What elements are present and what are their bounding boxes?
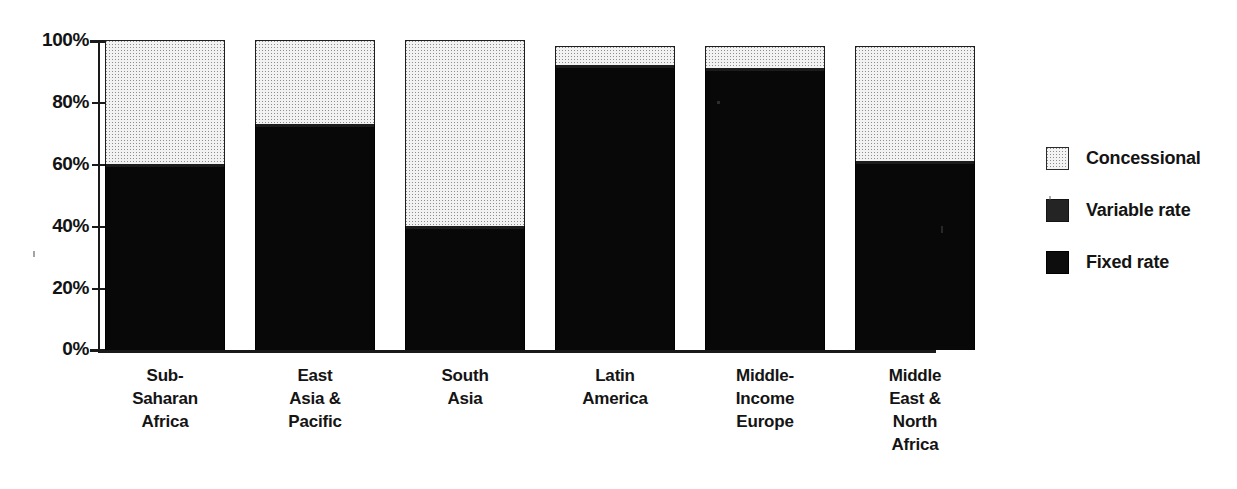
x-axis-category-label: Middle-IncomeEurope	[690, 364, 840, 433]
x-axis-category-label: EastAsia &Pacific	[240, 364, 390, 433]
scan-speckle	[717, 101, 720, 104]
bar-segment-concessional[interactable]	[405, 40, 525, 226]
y-axis-tick-80	[92, 102, 105, 104]
category-label-line: Middle	[840, 364, 990, 387]
bar-group[interactable]	[855, 46, 975, 350]
y-axis-tick-20	[92, 288, 105, 290]
category-label-line: South	[390, 364, 540, 387]
category-label-line: Income	[690, 387, 840, 410]
x-axis-category-label: LatinAmerica	[540, 364, 690, 410]
scan-speckle	[1049, 196, 1051, 200]
bar-segment-fixed-rate[interactable]	[105, 167, 225, 350]
legend-label-fixed-rate: Fixed rate	[1086, 252, 1169, 273]
category-label-line: Saharan	[90, 387, 240, 410]
category-label-line: Europe	[690, 410, 840, 433]
bar-segment-fixed-rate[interactable]	[705, 71, 825, 350]
y-axis-label-60: 60%	[52, 153, 89, 175]
category-label-line: Pacific	[240, 410, 390, 433]
bar-segment-fixed-rate[interactable]	[555, 68, 675, 350]
category-label-line: Asia	[390, 387, 540, 410]
legend-label-variable-rate: Variable rate	[1086, 200, 1190, 221]
category-label-line: Latin	[540, 364, 690, 387]
bar-group[interactable]	[705, 46, 825, 350]
bar-segment-fixed-rate[interactable]	[855, 164, 975, 350]
category-label-line: Middle-	[690, 364, 840, 387]
bar-group[interactable]	[105, 40, 225, 350]
y-axis-label-20: 20%	[52, 277, 89, 299]
legend-item-concessional[interactable]: Concessional	[1046, 132, 1236, 184]
y-axis-label-0: 0%	[62, 338, 89, 360]
bar-group[interactable]	[555, 46, 675, 350]
category-label-line: Sub-	[90, 364, 240, 387]
category-label-line: East	[240, 364, 390, 387]
bar-group[interactable]	[405, 40, 525, 350]
category-label-line: America	[540, 387, 690, 410]
category-label-line: North	[840, 410, 990, 433]
x-axis-category-label: Sub-SaharanAfrica	[90, 364, 240, 433]
bar-segment-concessional[interactable]	[855, 46, 975, 161]
y-axis-label-100: 100%	[42, 29, 89, 51]
scan-speckle	[33, 251, 35, 257]
stacked-bar-chart: 100% 80% 60% 40% 20% 0% Sub-SaharanAfric…	[0, 0, 1237, 489]
y-axis-tick-60	[92, 164, 105, 166]
concessional-swatch-icon	[1046, 147, 1069, 170]
category-label-line: Asia &	[240, 387, 390, 410]
category-label-line: Africa	[840, 433, 990, 456]
chart-legend: Concessional Variable rate Fixed rate	[1046, 132, 1236, 288]
bar-segment-fixed-rate[interactable]	[405, 229, 525, 350]
category-label-line: Africa	[90, 410, 240, 433]
y-axis-line	[98, 40, 100, 351]
bar-segment-concessional[interactable]	[105, 40, 225, 164]
y-axis-label-40: 40%	[52, 215, 89, 237]
bar-segment-concessional[interactable]	[555, 46, 675, 65]
x-axis-line	[98, 350, 936, 353]
scan-speckle	[941, 226, 943, 233]
bar-group[interactable]	[255, 40, 375, 350]
legend-item-fixed-rate[interactable]: Fixed rate	[1046, 236, 1236, 288]
x-axis-category-label: MiddleEast &NorthAfrica	[840, 364, 990, 456]
category-label-line: East &	[840, 387, 990, 410]
bar-segment-concessional[interactable]	[705, 46, 825, 68]
bar-segment-concessional[interactable]	[255, 40, 375, 124]
x-axis-category-label: SouthAsia	[390, 364, 540, 410]
y-axis-tick-40	[92, 226, 105, 228]
variable-rate-swatch-icon	[1046, 199, 1069, 222]
legend-item-variable-rate[interactable]: Variable rate	[1046, 184, 1236, 236]
y-axis-label-80: 80%	[52, 91, 89, 113]
y-axis-tick-100	[90, 40, 106, 43]
plot-area	[105, 40, 935, 350]
legend-label-concessional: Concessional	[1086, 148, 1201, 169]
fixed-rate-swatch-icon	[1046, 251, 1069, 274]
bar-segment-fixed-rate[interactable]	[255, 127, 375, 350]
